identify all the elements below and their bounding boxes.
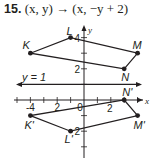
vertex-label: K <box>22 39 30 51</box>
x-tick-label: -4 <box>26 102 35 113</box>
y-axis-arrow-icon <box>82 25 87 31</box>
y-axis-label: y <box>87 25 92 35</box>
vertex-label: N <box>121 71 129 83</box>
y-tick-label: 2 <box>74 64 80 75</box>
reflection-right-arrow-icon <box>136 82 142 87</box>
vertex-n-prime <box>122 98 127 103</box>
vertex-m <box>135 51 140 56</box>
reflection-line-label: y = 1 <box>21 71 46 83</box>
x-tick-label: 2 <box>107 103 113 114</box>
vertex-m-prime <box>135 113 140 118</box>
coordinate-graph: xy-4202422y = 1KLMNK'L'M'N' <box>0 0 151 161</box>
vertex-label: N' <box>122 86 133 98</box>
vertex-label: M <box>133 39 143 51</box>
vertex-label: L' <box>65 133 74 145</box>
vertex-k-prime <box>28 113 33 118</box>
vertex-k <box>28 51 33 56</box>
vertex-label: K' <box>24 119 34 131</box>
vertex-label: L <box>67 25 73 37</box>
x-tick-label: 0 <box>77 102 83 113</box>
y-tick-label: 2 <box>74 126 80 137</box>
y-tick-label: 4 <box>74 33 80 44</box>
vertex-label: M' <box>134 119 146 131</box>
x-tick-label: 2 <box>54 102 60 113</box>
x-axis-label: x <box>144 96 149 106</box>
